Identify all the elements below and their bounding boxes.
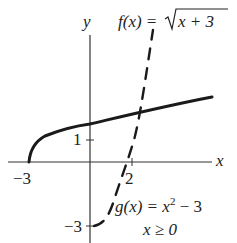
y-axis-label: y <box>81 12 91 31</box>
g-equation: g(x) = x2 − 3 <box>115 195 202 216</box>
tick-label-x-2: 2 <box>125 169 134 188</box>
tick-label-x-neg3: −3 <box>13 169 31 188</box>
g-domain: x ≥ 0 <box>142 220 177 239</box>
f-equation-rhs: x + 3 <box>177 12 214 31</box>
f-curve <box>29 97 212 162</box>
tick-label-y-neg3: −3 <box>64 217 82 236</box>
f-equation-lhs: f(x) = <box>118 12 157 31</box>
tick-label-y-1: 1 <box>73 130 82 149</box>
x-axis-label: x <box>215 151 224 170</box>
function-graph: y x f(x) = x + 3 −3 2 1 −3 g(x) = x2 − 3… <box>0 0 237 243</box>
